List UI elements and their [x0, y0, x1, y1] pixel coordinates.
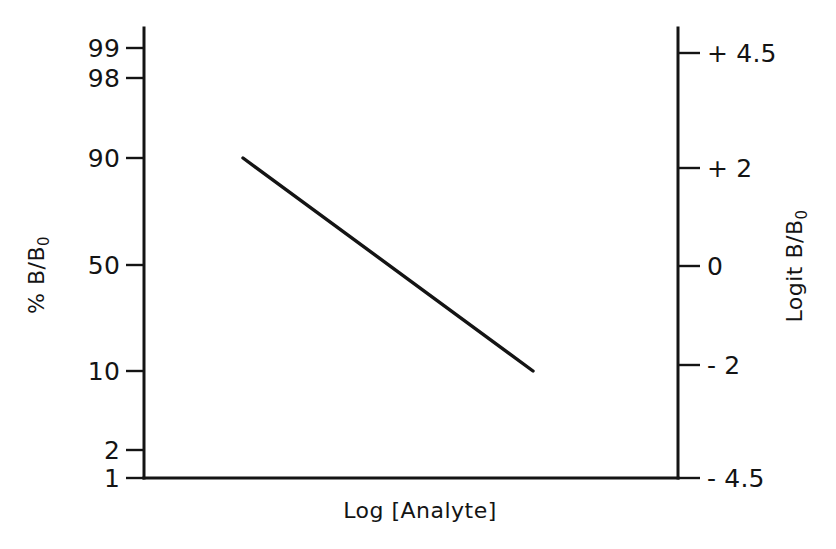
right-tick-label-minus-2: - 2	[707, 351, 740, 380]
left-tick-label-98: 98	[88, 64, 120, 93]
left-tick-label-1: 1	[104, 464, 120, 493]
right-tick-label-plus-4-5: + 4.5	[707, 39, 777, 68]
left-axis-ticks	[126, 48, 144, 478]
left-tick-label-10: 10	[88, 357, 120, 386]
axis-frame	[144, 28, 678, 478]
left-axis-tick-labels: 99 98 90 50 10 2 1	[88, 34, 120, 493]
left-axis-title: % B/B0	[24, 236, 53, 314]
svg-text:Logit B/B0: Logit B/B0	[782, 209, 811, 322]
right-axis-tick-labels: + 4.5 + 2 0 - 2 - 4.5	[707, 39, 777, 493]
standard-curve-line	[243, 158, 533, 371]
svg-text:% B/B0: % B/B0	[24, 236, 53, 314]
right-axis-title-subscript: 0	[793, 209, 811, 219]
data-series-standard-curve	[243, 158, 533, 371]
right-axis-title: Logit B/B0	[782, 209, 811, 322]
left-tick-label-2: 2	[104, 436, 120, 465]
left-tick-label-99: 99	[88, 34, 120, 63]
x-axis-title: Log [Analyte]	[343, 498, 497, 523]
right-tick-label-minus-4-5: - 4.5	[707, 464, 765, 493]
left-tick-label-90: 90	[88, 144, 120, 173]
left-axis-title-text: % B/B	[24, 246, 49, 314]
chart-screenshot: 99 98 90 50 10 2 1 + 4.5 + 2 0 - 2 - 4.5	[0, 0, 836, 549]
right-axis-title-text: Logit B/B	[782, 219, 807, 322]
standard-curve-chart: 99 98 90 50 10 2 1 + 4.5 + 2 0 - 2 - 4.5	[0, 0, 836, 549]
left-tick-label-50: 50	[88, 251, 120, 280]
right-tick-label-0: 0	[707, 252, 723, 281]
left-axis-title-subscript: 0	[35, 236, 53, 246]
right-tick-label-plus-2: + 2	[707, 154, 752, 183]
right-axis-ticks	[678, 53, 700, 478]
